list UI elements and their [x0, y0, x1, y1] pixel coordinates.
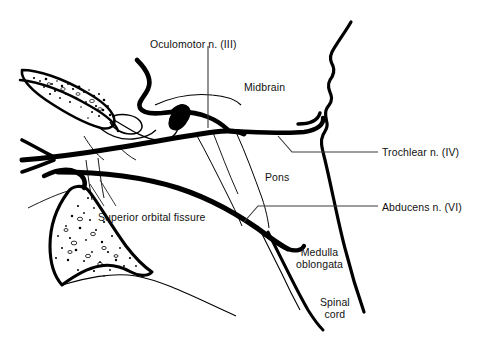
- trochlear-nerve-distal-arc: [230, 118, 323, 133]
- bone-lower-thin-shelf: [62, 275, 236, 316]
- label-midbrain: Midbrain: [244, 81, 285, 93]
- label-abducens-nerve: Abducens n. (VI): [382, 201, 462, 213]
- nerve-thin-filament-pons: [212, 130, 238, 194]
- brainstem-group: [236, 22, 364, 330]
- label-medulla-oblongata: Medulla oblongata: [296, 246, 343, 270]
- bone-lower-stipple: [55, 197, 137, 277]
- nerve-thin-root-b: [98, 158, 104, 198]
- leader-abducens: [244, 206, 378, 222]
- brainstem-anterior-thin-contour: [258, 226, 300, 310]
- label-superior-orbital-fissure: Superior orbital fissure: [98, 211, 205, 223]
- cranial-nerve-diagram: Oculomotor n. (III) Trochlear n. (IV) Ab…: [0, 0, 489, 346]
- trochlear-nerve-trunk: [22, 131, 244, 160]
- sphenoid-bone-upper-outline: [22, 70, 114, 129]
- anatomical-illustration: [0, 0, 489, 346]
- sphenoid-bone-upper-lower-edge: [20, 80, 118, 131]
- label-spinal-cord: Spinal cord: [320, 296, 350, 320]
- trochlear-nerve-fork-upper: [22, 140, 54, 157]
- trochlear-nerve-right-hook: [298, 113, 320, 124]
- leader-fissure-b: [100, 180, 116, 206]
- label-oculomotor-nerve: Oculomotor n. (III): [150, 38, 237, 50]
- bone-upper-group: [20, 70, 156, 139]
- oculomotor-thin-root-line: [155, 94, 241, 105]
- leader-trochlear: [278, 136, 378, 152]
- label-pons: Pons: [265, 171, 289, 183]
- label-trochlear-nerve: Trochlear n. (IV): [382, 146, 459, 158]
- nerve-stub-club: [169, 105, 190, 130]
- nerve-thin-root-a: [86, 160, 92, 200]
- bone-lower-group: [28, 186, 236, 316]
